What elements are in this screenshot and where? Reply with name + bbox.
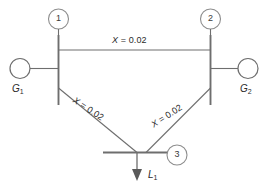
reactance-label-line-1-2: X = 0.02 [112, 36, 147, 45]
generator-2-symbol [238, 59, 258, 79]
load-1-label-text: L [148, 169, 154, 180]
generator-2-label-text: G [240, 83, 248, 94]
bus-label-3: 3 [167, 150, 188, 159]
generator-2-label: G2 [240, 84, 252, 94]
generator-1-label: G1 [12, 84, 24, 94]
bus-label-2: 2 [200, 14, 221, 23]
generator-1-symbol [10, 59, 30, 79]
bus-label-1: 1 [48, 14, 69, 23]
load-1-arrowhead [132, 169, 142, 181]
load-1-label: L1 [148, 170, 157, 180]
generator-2-label-sub: 2 [248, 88, 252, 95]
reactance-value-1-2: 0.02 [129, 35, 147, 45]
load-1-label-sub: 1 [154, 174, 158, 181]
generator-1-label-sub: 1 [20, 88, 24, 95]
diagram-canvas [0, 0, 268, 192]
one-line-diagram: 1 2 3 X = 0.02 X = 0.02 X = 0.02 G1 G2 L… [0, 0, 268, 192]
generator-1-label-text: G [12, 83, 20, 94]
